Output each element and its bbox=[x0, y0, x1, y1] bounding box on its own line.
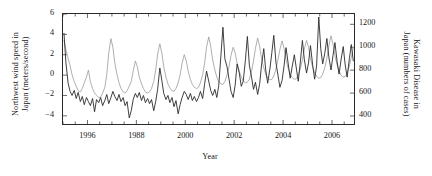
y-axis-right-title: Kawasaki Disease in Japan (numbers of ca… bbox=[401, 12, 421, 136]
x-axis-tick-1: 1988 bbox=[128, 131, 144, 140]
plot-area bbox=[62, 13, 355, 125]
series-canvas bbox=[63, 14, 354, 124]
x-axis-tick-5: 2006 bbox=[324, 131, 340, 140]
y-axis-right-tick-4: 400 bbox=[359, 110, 371, 119]
chart-figure: Northwest wind speed in Japan (meters/se… bbox=[0, 0, 432, 176]
y-axis-right-tick-labels: 12001000800600400 bbox=[359, 0, 399, 176]
y-axis-right-title-line2: Japan (numbers of cases) bbox=[401, 12, 411, 136]
y-axis-left-tick-0: 6 bbox=[50, 8, 54, 17]
y-axis-left-tick-labels: 6420−2−4 bbox=[0, 0, 58, 176]
y-axis-right-tick-3: 600 bbox=[359, 87, 371, 96]
y-axis-left-tick-3: 0 bbox=[50, 69, 54, 78]
y-axis-left-tick-2: 2 bbox=[50, 49, 54, 58]
x-axis-tick-4: 2004 bbox=[275, 131, 291, 140]
series-kawasaki-disease bbox=[64, 36, 353, 98]
y-axis-right-tick-0: 1200 bbox=[359, 18, 375, 27]
x-axis-tick-0: 1996 bbox=[79, 131, 95, 140]
y-axis-right-title-line1: Kawasaki Disease in bbox=[412, 39, 421, 109]
x-axis-tick-3: 2002 bbox=[226, 131, 242, 140]
x-axis-tick-labels: 199619882000200220042006 bbox=[0, 131, 432, 145]
y-axis-right-tick-1: 1000 bbox=[359, 41, 375, 50]
y-axis-right-tick-2: 800 bbox=[359, 64, 371, 73]
x-axis-tick-2: 2000 bbox=[177, 131, 193, 140]
x-axis-title: Year bbox=[160, 152, 260, 162]
y-axis-left-tick-5: −4 bbox=[45, 110, 54, 119]
y-axis-left-tick-1: 4 bbox=[50, 28, 54, 37]
y-axis-left-tick-4: −2 bbox=[45, 89, 54, 98]
